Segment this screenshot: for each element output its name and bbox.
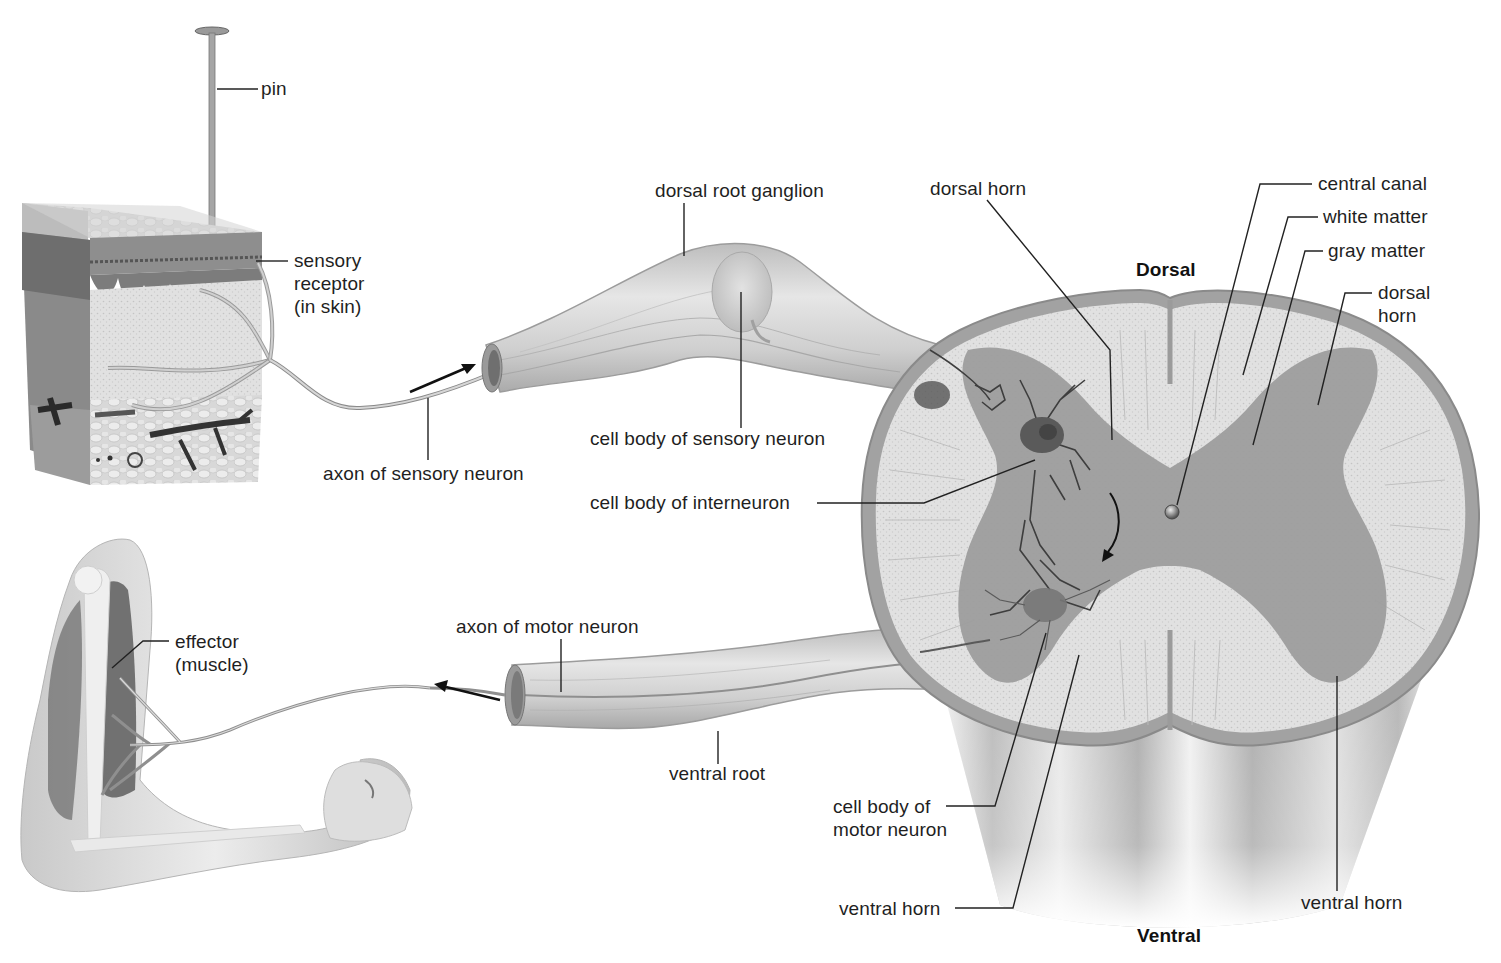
label-axon-sensory-neuron: axon of sensory neuron xyxy=(323,462,524,485)
label-dorsal-horn-right: dorsal horn xyxy=(1378,281,1430,327)
label-ventral-horn-left: ventral horn xyxy=(839,897,941,920)
motor-neuron-cell-body xyxy=(1023,588,1067,622)
label-central-canal: central canal xyxy=(1318,172,1427,195)
spinal-cord-cross-section xyxy=(862,290,1479,746)
afferent-arrow-icon xyxy=(410,364,476,392)
label-ventral-root: ventral root xyxy=(669,762,765,785)
label-axon-motor-neuron: axon of motor neuron xyxy=(456,615,639,638)
reflex-arc-illustration xyxy=(0,0,1501,963)
label-effector-muscle: effector (muscle) xyxy=(175,630,249,676)
label-cell-body-motor-neuron: cell body of motor neuron xyxy=(833,795,947,841)
label-ventral-horn-right: ventral horn xyxy=(1301,891,1403,914)
sensory-axon-illustration xyxy=(270,360,495,408)
label-cell-body-sensory-neuron: cell body of sensory neuron xyxy=(590,427,825,450)
arm-illustration xyxy=(21,539,505,892)
label-gray-matter: gray matter xyxy=(1328,239,1425,262)
label-sensory-receptor: sensory receptor (in skin) xyxy=(294,249,365,318)
skin-block-illustration xyxy=(22,203,272,485)
label-cell-body-interneuron: cell body of interneuron xyxy=(590,491,790,514)
label-pin: pin xyxy=(261,77,287,100)
label-white-matter: white matter xyxy=(1323,205,1428,228)
label-dorsal-horn-left: dorsal horn xyxy=(930,177,1026,200)
central-canal-dot xyxy=(1165,505,1179,519)
label-dorsal-root-ganglion: dorsal root ganglion xyxy=(655,179,824,202)
dorsal-root-illustration xyxy=(482,244,940,395)
label-orientation-ventral: Ventral xyxy=(1137,924,1201,947)
label-orientation-dorsal: Dorsal xyxy=(1136,258,1196,281)
